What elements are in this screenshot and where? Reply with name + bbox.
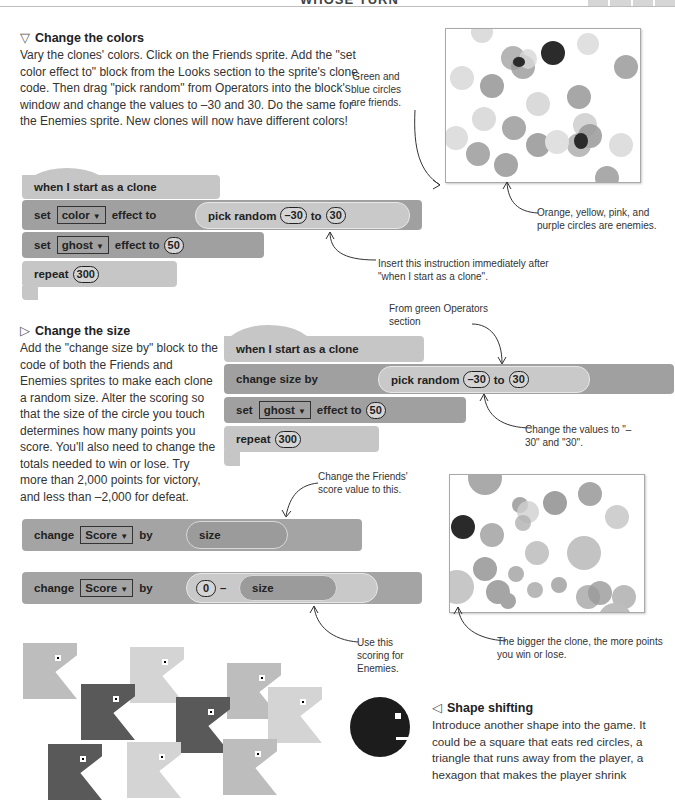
game-stage-colors [445, 28, 641, 183]
reporter-size[interactable]: size [239, 575, 337, 601]
section-shape-shifting: ◁Shape shifting Introduce another shape … [432, 700, 675, 783]
subtract-left-input[interactable]: 0 [196, 580, 216, 597]
section-body: Vary the clones' colors. Click on the Fr… [20, 47, 365, 130]
effect-dropdown[interactable]: ghost▼ [57, 236, 109, 254]
fish-sprite [223, 739, 277, 795]
annotation-bigger: The bigger the clone, the more points yo… [497, 635, 672, 661]
section-change-colors: ▽Change the colors Vary the clones' colo… [20, 30, 365, 130]
arrow-enemies-icon [500, 180, 540, 220]
block-when-start-as-clone[interactable]: when I start as a clone [224, 336, 424, 362]
repeat-block-arm [22, 286, 38, 300]
dropdown-arrow-icon: ▼ [93, 212, 101, 221]
block-set-ghost-effect[interactable]: set ghost▼ effect to 50 [224, 397, 466, 423]
section-heading: ▽Change the colors [20, 30, 365, 45]
ghost-value-input[interactable]: 50 [164, 237, 184, 254]
annotation-enemies-score: Use this scoring for Enemies. [357, 636, 417, 675]
block-set-ghost-effect[interactable]: set ghost▼ effect to 50 [22, 232, 264, 258]
random-from-input[interactable]: –30 [463, 371, 489, 388]
arrow-insert-icon [318, 230, 378, 266]
fish-sprite [127, 742, 181, 798]
fish-sprite [23, 643, 77, 699]
left-triangle-icon: ◁ [432, 700, 442, 715]
dropdown-arrow-icon: ▼ [120, 585, 128, 594]
dropdown-arrow-icon: ▼ [120, 532, 128, 541]
circle-player-sprite-icon [350, 697, 416, 763]
dropdown-arrow-icon: ▼ [298, 407, 306, 416]
annotation-enemies: Orange, yellow, pink, and purple circles… [537, 206, 667, 232]
repeat-count-input[interactable]: 300 [275, 431, 301, 448]
arrow-friends-icon [395, 110, 445, 190]
annotation-friends: Green and blue circles are friends. [345, 70, 407, 109]
variable-dropdown[interactable]: Score▼ [80, 526, 133, 544]
right-triangle-icon: ▷ [20, 323, 30, 338]
fish-sprite [268, 687, 322, 743]
operator-pick-random[interactable]: pick random –30 to 30 [378, 366, 590, 393]
page-header-tabs [588, 0, 675, 6]
section-body: Add the "change size by" block to the co… [20, 340, 220, 505]
block-repeat[interactable]: repeat 300 [224, 426, 379, 452]
block-repeat[interactable]: repeat 300 [22, 261, 177, 287]
arrow-friends-score-icon [270, 480, 320, 520]
page-header-title: WHOSE TURN [300, 0, 399, 7]
fish-sprite [176, 697, 230, 753]
repeat-count-input[interactable]: 300 [73, 266, 99, 283]
repeat-block-arm [224, 450, 240, 466]
annotation-friends-score: Change the Friends' score value to this. [318, 470, 418, 496]
fish-sprite [81, 684, 135, 740]
random-to-input[interactable]: 30 [509, 371, 529, 388]
fish-sprite [48, 744, 102, 800]
block-when-start-as-clone[interactable]: when I start as a clone [22, 175, 220, 199]
operator-pick-random[interactable]: pick random –30 to 30 [195, 202, 410, 229]
effect-dropdown[interactable]: ghost▼ [259, 401, 311, 419]
ghost-value-input[interactable]: 50 [366, 402, 386, 419]
reporter-size[interactable]: size [186, 521, 288, 549]
random-to-input[interactable]: 30 [326, 207, 346, 224]
fish-sprites-illustration [20, 640, 330, 779]
arrow-operators-icon [470, 318, 510, 368]
game-stage-size [449, 474, 645, 613]
annotation-values: Change the values to "–30" and "30". [525, 423, 635, 449]
section-body: Introduce another shape into the game. I… [432, 717, 675, 783]
fish-sprite [130, 647, 184, 703]
section-heading: ▷Change the size [20, 323, 220, 338]
section-change-size: ▷Change the size Add the "change size by… [20, 323, 220, 505]
random-from-input[interactable]: –30 [280, 207, 306, 224]
annotation-insert: Insert this instruction immediately afte… [378, 257, 578, 283]
dropdown-arrow-icon: ▼ [96, 242, 104, 251]
section-heading: ◁Shape shifting [432, 700, 675, 715]
variable-dropdown[interactable]: Score▼ [80, 579, 133, 597]
down-triangle-icon: ▽ [20, 30, 30, 45]
effect-dropdown[interactable]: color▼ [57, 206, 106, 224]
